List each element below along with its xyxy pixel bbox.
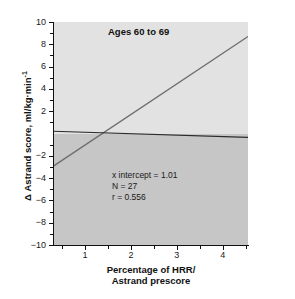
x-axis-title: Percentage of HRR/ Astrand prescore — [53, 264, 249, 286]
annotation-correlation: r = 0.556 — [112, 192, 177, 203]
y-axis-line — [53, 22, 54, 246]
y-axis-title-text: Δ Astrand score, ml/kg·min — [22, 77, 33, 201]
x-minor-tick-1.5 — [108, 246, 109, 249]
y-tick--8 — [49, 223, 53, 224]
y-tick-label--6: −6 — [36, 196, 46, 205]
y-tick--4 — [49, 178, 53, 179]
plot-data-lines — [53, 22, 248, 245]
y-minor-tick--5 — [50, 189, 53, 190]
y-tick-label--4: −4 — [36, 174, 46, 183]
y-minor-tick-9 — [50, 33, 53, 34]
statistics-annotation: x intercept = 1.01 N = 27 r = 0.556 — [112, 170, 177, 203]
y-axis-title: Δ Astrand score, ml/kg·min-1 — [21, 26, 33, 246]
y-tick-4 — [49, 89, 53, 90]
x-tick-label-2: 2 — [121, 251, 141, 260]
x-minor-tick-0.5 — [62, 246, 63, 249]
regression-line-series — [53, 36, 248, 166]
y-tick--10 — [49, 245, 53, 246]
annotation-sample-size: N = 27 — [112, 181, 177, 192]
y-tick-label-2: 2 — [41, 107, 46, 116]
x-tick-label-3: 3 — [167, 251, 187, 260]
x-tick-label-4: 4 — [213, 251, 233, 260]
x-axis-title-line1: Percentage of HRR/ — [53, 264, 249, 275]
annotation-x-intercept: x intercept = 1.01 — [112, 170, 177, 181]
x-minor-tick-3.5 — [200, 246, 201, 249]
y-tick-8 — [49, 44, 53, 45]
chart-figure: 108642−2−4−6−8−101234 Ages 60 to 69 Δ As… — [0, 0, 295, 299]
y-tick--6 — [49, 200, 53, 201]
chart-title: Ages 60 to 69 — [108, 26, 169, 37]
x-tick-label-1: 1 — [75, 251, 95, 260]
x-minor-tick-4.5 — [246, 246, 247, 249]
y-tick-10 — [49, 22, 53, 23]
y-minor-tick-3 — [50, 100, 53, 101]
y-minor-tick--7 — [50, 212, 53, 213]
x-axis-line — [53, 245, 249, 246]
y-tick-label-4: 4 — [41, 84, 46, 93]
y-minor-tick--1 — [50, 145, 53, 146]
plot-area — [53, 22, 248, 245]
y-tick-6 — [49, 67, 53, 68]
y-tick-label-6: 6 — [41, 62, 46, 71]
y-tick--2 — [49, 156, 53, 157]
y-tick-label-10: 10 — [36, 18, 46, 27]
y-minor-tick-7 — [50, 55, 53, 56]
y-minor-tick-1 — [50, 122, 53, 123]
y-tick-label-8: 8 — [41, 40, 46, 49]
zero-reference-line-series — [53, 131, 248, 137]
y-minor-tick--3 — [50, 167, 53, 168]
x-axis-title-line2: Astrand prescore — [53, 275, 249, 286]
y-tick-label--8: −8 — [36, 218, 46, 227]
y-tick-2 — [49, 111, 53, 112]
y-tick-label--2: −2 — [36, 151, 46, 160]
x-minor-tick-2.5 — [154, 246, 155, 249]
y-minor-tick--9 — [50, 234, 53, 235]
y-minor-tick-5 — [50, 78, 53, 79]
y-axis-title-exponent: -1 — [21, 71, 28, 77]
